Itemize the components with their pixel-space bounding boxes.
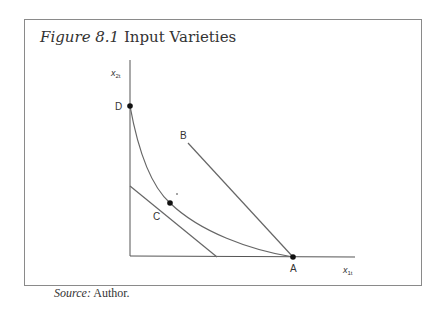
tangent-line-c [130,186,217,257]
point-a [290,254,296,260]
label-c: C [153,211,160,222]
y-axis-label: x2t [110,68,121,79]
stray-dot [176,193,178,195]
label-a: A [290,263,297,274]
label-b: B [180,130,187,141]
isoquant-curve [130,106,293,257]
diagram: D B C A x2t x1t [0,0,445,330]
line-b [188,143,293,257]
point-c [167,200,173,206]
source-note: Source: Author. [54,286,130,301]
source-label: Source: [54,286,91,300]
x-axis [130,256,355,257]
source-value: Author. [93,286,129,300]
x-axis-label: x1t [342,265,353,276]
label-d: D [115,101,122,112]
point-d [127,103,133,109]
